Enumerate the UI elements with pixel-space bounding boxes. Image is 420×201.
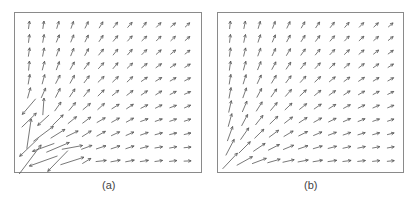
panel-b-vector-field (217, 12, 404, 173)
panel-a-caption: (a) (102, 179, 115, 191)
panel-a-vector-field (14, 12, 202, 173)
vector-field-a-plot (15, 13, 203, 174)
panel-b-caption: (b) (304, 179, 317, 191)
vector-field-b-plot (218, 13, 405, 174)
